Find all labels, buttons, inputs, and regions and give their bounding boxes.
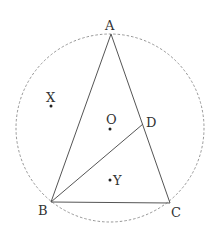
label-a: A bbox=[104, 18, 115, 33]
label-d: D bbox=[146, 115, 156, 130]
label-o: O bbox=[106, 112, 117, 127]
label-y: Y bbox=[112, 173, 122, 188]
segment-bc bbox=[51, 202, 170, 203]
label-c: C bbox=[171, 205, 181, 220]
label-x: X bbox=[46, 90, 56, 105]
geometry-diagram: A B C D O X Y bbox=[0, 0, 218, 239]
point-y-dot bbox=[109, 179, 112, 182]
point-o-dot bbox=[109, 128, 112, 131]
label-b: B bbox=[38, 203, 48, 218]
diagram-svg: A B C D O X Y bbox=[0, 0, 218, 239]
